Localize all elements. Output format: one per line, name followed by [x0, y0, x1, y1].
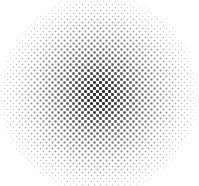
halftone-dot: [121, 13, 122, 14]
halftone-dot: [52, 40, 54, 42]
halftone-dot: [130, 22, 131, 23]
halftone-dot: [178, 82, 179, 83]
halftone-dot: [157, 25, 158, 26]
halftone-dot: [72, 84, 74, 86]
halftone-dot: [151, 139, 153, 141]
halftone-dot: [106, 166, 108, 168]
halftone-dot: [69, 111, 71, 113]
halftone-dot: [79, 25, 81, 27]
halftone-dot: [22, 148, 23, 149]
halftone-dot: [136, 184, 137, 185]
halftone-dot: [88, 184, 89, 185]
halftone-dot: [160, 52, 162, 54]
halftone-dot: [109, 163, 111, 165]
halftone-dot: [60, 84, 62, 86]
halftone-dot: [100, 34, 102, 36]
halftone-dot: [178, 58, 179, 59]
halftone-dot: [1, 79, 2, 80]
halftone-dot: [114, 138, 116, 140]
halftone-dot: [84, 114, 86, 116]
halftone-dot: [51, 105, 53, 107]
halftone-dot: [117, 135, 119, 137]
halftone-dot: [49, 67, 51, 69]
halftone-dot: [178, 130, 179, 131]
halftone-dot: [157, 61, 159, 63]
halftone-dot: [120, 90, 122, 92]
halftone-dot: [144, 102, 146, 104]
halftone-dot: [13, 61, 14, 62]
halftone-dot: [87, 81, 90, 84]
halftone-dot: [88, 172, 89, 173]
halftone-dot: [132, 102, 134, 104]
halftone-dot: [22, 46, 23, 47]
halftone-dot: [126, 66, 128, 68]
halftone-dot: [46, 100, 48, 102]
halftone-dot: [166, 136, 167, 137]
halftone-dot: [60, 66, 62, 68]
halftone-dot: [58, 136, 60, 138]
halftone-dot: [37, 97, 39, 99]
halftone-dot: [136, 22, 137, 23]
halftone-dot: [136, 160, 138, 162]
halftone-dot: [90, 84, 93, 87]
halftone-dot: [7, 121, 8, 122]
halftone-dot: [109, 31, 111, 33]
halftone-dot: [145, 7, 146, 8]
halftone-dot: [43, 85, 45, 87]
halftone-dot: [91, 151, 93, 153]
halftone-dot: [64, 184, 65, 185]
halftone-dot: [70, 184, 71, 185]
halftone-dot: [19, 127, 20, 128]
halftone-dot: [72, 96, 74, 98]
halftone-dot: [96, 108, 99, 111]
halftone-dot: [123, 105, 125, 107]
halftone-dot: [64, 10, 65, 11]
halftone-dot: [31, 115, 33, 117]
halftone-dot: [136, 142, 138, 144]
halftone-dot: [19, 91, 20, 92]
halftone-dot: [139, 175, 140, 176]
halftone-dot: [43, 145, 45, 147]
halftone-dot: [28, 88, 30, 90]
halftone-dot: [136, 172, 137, 173]
halftone-dot: [58, 142, 60, 144]
halftone-dot: [46, 124, 48, 126]
halftone-dot: [126, 126, 128, 128]
halftone-dot: [135, 117, 137, 119]
halftone-dot: [187, 73, 188, 74]
halftone-dot: [79, 31, 81, 33]
halftone-dot: [66, 102, 68, 104]
halftone-dot: [88, 148, 90, 150]
halftone-dot: [160, 124, 162, 126]
halftone-dot: [154, 64, 156, 66]
halftone-dot: [48, 90, 50, 92]
halftone-dot: [49, 61, 51, 63]
halftone-dot: [157, 127, 159, 129]
halftone-dot: [138, 120, 140, 122]
halftone-dot: [82, 184, 83, 185]
halftone-dot: [88, 154, 90, 156]
halftone-dot: [19, 139, 20, 140]
halftone-dot: [60, 102, 62, 104]
halftone-dot: [84, 60, 86, 62]
halftone-dot: [130, 46, 132, 48]
halftone-dot: [127, 139, 129, 141]
halftone-dot: [34, 136, 36, 138]
halftone-dot: [144, 78, 146, 80]
halftone-dot: [105, 63, 107, 65]
halftone-dot: [97, 163, 99, 165]
halftone-dot: [87, 51, 89, 53]
halftone-dot: [136, 166, 137, 167]
halftone-dot: [16, 76, 17, 77]
halftone-dot: [25, 61, 26, 62]
halftone-dot: [172, 58, 173, 59]
halftone-dot: [93, 123, 95, 125]
halftone-dot: [145, 151, 147, 153]
halftone-dot: [172, 154, 173, 155]
halftone-dot: [46, 178, 47, 179]
halftone-dot: [34, 22, 35, 23]
halftone-dot: [130, 4, 131, 5]
halftone-dot: [127, 175, 128, 176]
halftone-dot: [99, 87, 102, 90]
halftone-dot: [28, 124, 30, 126]
